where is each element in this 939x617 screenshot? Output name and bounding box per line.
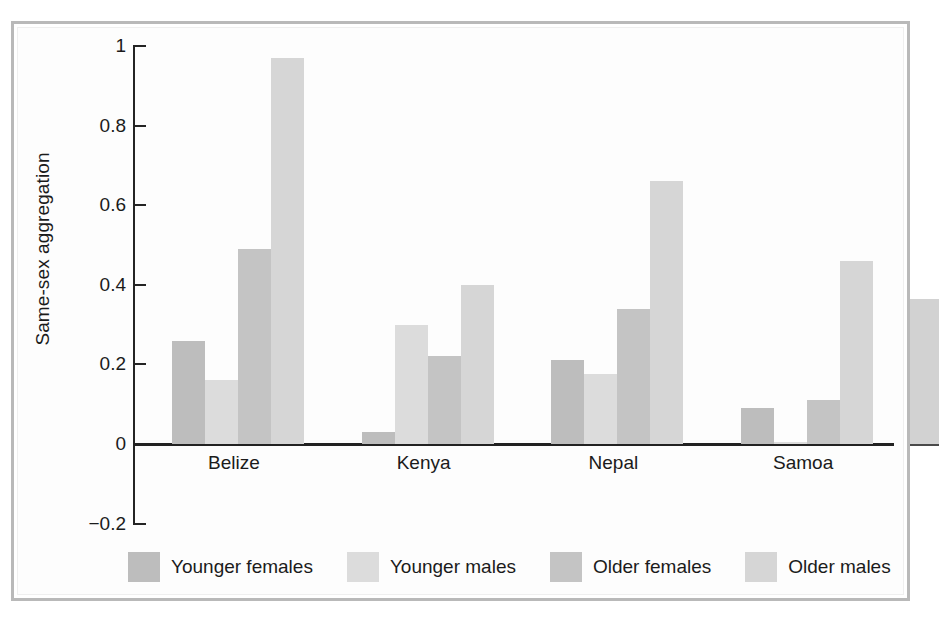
x-axis-label-nepal: Nepal (589, 452, 639, 474)
bar-group-kenya (362, 46, 494, 444)
legend-item-younger-males[interactable]: Younger males (347, 552, 516, 582)
legend-label: Younger females (171, 556, 313, 578)
y-tick-label: 1 (72, 35, 126, 57)
bar (238, 249, 271, 444)
bar (650, 181, 683, 444)
x-axis-label-samoa: Samoa (773, 452, 833, 474)
legend-swatch-icon (550, 552, 582, 582)
bar (741, 408, 774, 444)
bar (428, 356, 461, 444)
bar-chart: Same-sex aggregation 10.80.60.40.20−0.2 … (0, 0, 939, 617)
legend-swatch-icon (347, 552, 379, 582)
bar (172, 341, 205, 444)
bar (205, 380, 238, 444)
bar (461, 285, 494, 444)
x-axis-label-belize: Belize (208, 452, 260, 474)
bar-group-nepal (551, 46, 683, 444)
plot-region (135, 46, 894, 444)
bar (271, 58, 304, 444)
legend-item-older-females[interactable]: Older females (550, 552, 711, 582)
legend-swatch-icon (128, 552, 160, 582)
bar (840, 261, 873, 444)
bar (362, 432, 395, 444)
x-axis-label-kenya: Kenya (397, 452, 451, 474)
legend-item-younger-females[interactable]: Younger females (128, 552, 313, 582)
chart-legend: Younger femalesYounger malesOlder female… (128, 552, 891, 582)
y-tick-label: 0.6 (72, 194, 126, 216)
y-tick-label: 0.8 (72, 115, 126, 137)
bar (584, 374, 617, 444)
bar-group-samoa (741, 46, 873, 444)
legend-label: Older males (788, 556, 890, 578)
bar (774, 442, 807, 444)
y-tick-label: 0 (72, 433, 126, 455)
legend-label: Younger males (390, 556, 516, 578)
y-tick-label: 0.4 (72, 274, 126, 296)
bar (395, 325, 428, 444)
bar (617, 309, 650, 444)
legend-label: Older females (593, 556, 711, 578)
y-tick-label: −0.2 (72, 513, 126, 535)
bar (807, 400, 840, 444)
legend-item-older-males[interactable]: Older males (745, 552, 890, 582)
legend-swatch-icon (745, 552, 777, 582)
bar (551, 360, 584, 444)
y-axis-title: Same-sex aggregation (32, 84, 54, 414)
y-tick-label: 0.2 (72, 353, 126, 375)
bar-group-belize (172, 46, 304, 444)
